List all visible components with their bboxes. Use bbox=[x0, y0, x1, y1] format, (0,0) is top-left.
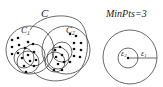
neighborhood-circle bbox=[47, 47, 69, 69]
epsilon-1-label: ε1 bbox=[141, 49, 147, 58]
center-point bbox=[127, 57, 129, 59]
cluster-diagram bbox=[6, 16, 90, 81]
dbscan-diagram: C C1 C2 MinPts=3 ε2 ε1 bbox=[0, 0, 163, 87]
epsilon-2-label: ε2 bbox=[121, 49, 127, 58]
subcluster-c1-label: C1 bbox=[21, 25, 30, 36]
subcluster-c2-label: C2 bbox=[66, 25, 75, 36]
epsilon-diagram bbox=[103, 30, 157, 84]
cluster-c-label: C bbox=[41, 7, 49, 19]
minpts-title: MinPts=3 bbox=[105, 8, 147, 19]
outer-epsilon-circle bbox=[103, 30, 157, 84]
neighborhood-circle bbox=[23, 44, 45, 66]
